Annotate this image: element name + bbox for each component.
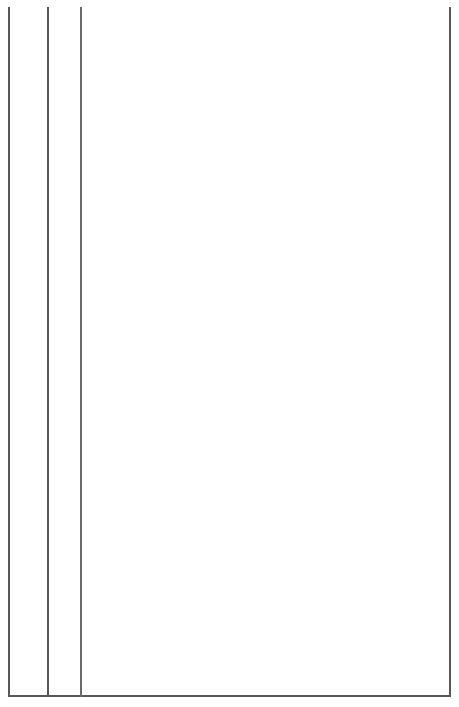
axis-baseline <box>80 7 82 697</box>
era-header-band <box>8 7 48 697</box>
year-axis <box>48 7 82 697</box>
frame-bottom-border <box>449 7 451 697</box>
rotated-page-wrapper <box>0 0 459 707</box>
timeline-chart <box>0 0 459 707</box>
